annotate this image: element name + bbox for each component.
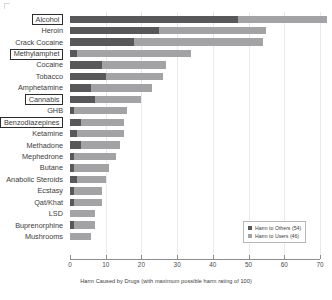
- category-label-buprenorphine: Buprenorphine: [0, 220, 66, 231]
- bar-segment-harm-to-users: [74, 199, 103, 206]
- category-label-ghb: GHB: [0, 106, 66, 117]
- bar-segment-harm-to-users: [81, 141, 120, 148]
- category-label-text: Cannabis: [25, 94, 63, 105]
- stacked-bar-mephedrone: [70, 153, 116, 160]
- stacked-bar-ecstasy: [70, 187, 102, 194]
- category-label-mephedrone: Mephedrone: [0, 151, 66, 162]
- x-axis-tick-label: 0: [68, 261, 72, 268]
- legend-label: Harm to Others (54): [255, 225, 301, 231]
- category-label-text: Amphetamine: [18, 84, 63, 92]
- bar-row: [70, 106, 320, 117]
- bar-segment-harm-to-others: [70, 141, 81, 148]
- category-label-text: Ecstasy: [37, 187, 63, 195]
- category-label-text: Methylamphet: [10, 49, 63, 60]
- category-label-lsd: LSD: [0, 208, 66, 219]
- chart-legend: Harm to Others (54)Harm to Users (46): [243, 221, 306, 243]
- bar-row: [70, 48, 320, 59]
- category-label-text: GHB: [47, 107, 63, 115]
- bar-row: [70, 174, 320, 185]
- stacked-bar-cocaine: [70, 61, 166, 68]
- bar-row: [70, 151, 320, 162]
- bar-row: [70, 25, 320, 36]
- bar-segment-harm-to-others: [70, 176, 77, 183]
- bar-segment-harm-to-users: [159, 27, 266, 34]
- category-label-text: LSD: [49, 210, 63, 218]
- category-label-methadone: Methadone: [0, 140, 66, 151]
- category-label-text: Alcohol: [32, 14, 63, 25]
- legend-item: Harm to Users (46): [248, 233, 301, 239]
- bar-row: [70, 186, 320, 197]
- stacked-bar-heroin: [70, 27, 266, 34]
- bar-segment-harm-to-users: [74, 153, 117, 160]
- bar-segment-harm-to-users: [95, 96, 141, 103]
- stacked-bar-methadone: [70, 141, 120, 148]
- category-label-text: Cocaine: [36, 61, 63, 69]
- bar-segment-harm-to-others: [70, 119, 81, 126]
- x-axis-tick: [249, 255, 250, 259]
- x-axis-line: [70, 259, 320, 260]
- x-axis-tick-label: 60: [281, 261, 288, 268]
- bar-segment-harm-to-others: [70, 16, 238, 23]
- bar-segment-harm-to-users: [91, 84, 152, 91]
- category-label-anabolic-steroids: Anabolic Steroids: [0, 174, 66, 185]
- bar-segment-harm-to-users: [77, 130, 123, 137]
- bar-segment-harm-to-others: [70, 50, 77, 57]
- bar-segment-harm-to-users: [77, 50, 191, 57]
- x-axis-tick: [320, 255, 321, 259]
- legend-swatch-icon: [248, 226, 252, 230]
- bar-segment-harm-to-users: [81, 119, 124, 126]
- stacked-bar-qat-khat: [70, 199, 102, 206]
- x-axis-tick-label: 30: [174, 261, 181, 268]
- stacked-bar-methylamphet: [70, 50, 191, 57]
- category-label-text: Crack Cocaine: [15, 39, 63, 47]
- category-label-heroin: Heroin: [0, 25, 66, 36]
- drug-harm-bar-chart: AlcoholHeroinCrack CocaineMethylamphetCo…: [0, 0, 332, 300]
- stacked-bar-amphetamine: [70, 84, 152, 91]
- bar-segment-harm-to-users: [102, 61, 166, 68]
- bar-segment-harm-to-others: [70, 38, 134, 45]
- category-label-qat-khat: Qat/Khat: [0, 197, 66, 208]
- category-label-methylamphet: Methylamphet: [0, 48, 66, 59]
- x-axis-tick: [106, 255, 107, 259]
- bar-segment-harm-to-others: [70, 73, 106, 80]
- bar-row: [70, 197, 320, 208]
- x-axis-tick-label: 10: [102, 261, 109, 268]
- bar-segment-harm-to-users: [70, 233, 91, 240]
- x-axis-tick-label: 70: [316, 261, 323, 268]
- category-label-benzodiazepines: Benzodiazepines: [0, 117, 66, 128]
- x-axis-tick-label: 50: [245, 261, 252, 268]
- bar-segment-harm-to-users: [238, 16, 327, 23]
- stacked-bar-crack-cocaine: [70, 38, 263, 45]
- bar-segment-harm-to-others: [70, 61, 102, 68]
- x-axis-tick: [177, 255, 178, 259]
- category-label-text: Butane: [40, 164, 63, 172]
- category-label-amphetamine: Amphetamine: [0, 83, 66, 94]
- bar-row: [70, 208, 320, 219]
- x-axis-tick: [284, 255, 285, 259]
- category-axis-labels: AlcoholHeroinCrack CocaineMethylamphetCo…: [0, 14, 66, 243]
- bar-segment-harm-to-others: [70, 84, 91, 91]
- stacked-bar-ketamine: [70, 130, 124, 137]
- bar-row: [70, 83, 320, 94]
- category-label-mushrooms: Mushrooms: [0, 231, 66, 242]
- bar-segment-harm-to-users: [74, 164, 110, 171]
- bar-segment-harm-to-others: [70, 96, 95, 103]
- bar-segment-harm-to-users: [74, 221, 95, 228]
- category-label-ketamine: Ketamine: [0, 128, 66, 139]
- legend-label: Harm to Users (46): [255, 233, 299, 239]
- stacked-bar-lsd: [70, 210, 95, 217]
- category-label-text: Tobacco: [36, 73, 63, 81]
- figure-corner-mark: [4, 3, 10, 9]
- bar-segment-harm-to-others: [70, 130, 77, 137]
- bar-segment-harm-to-users: [106, 73, 163, 80]
- bar-row: [70, 128, 320, 139]
- gridline: [320, 12, 321, 257]
- legend-swatch-icon: [248, 234, 252, 238]
- x-axis-tick-label: 20: [138, 261, 145, 268]
- bar-segment-harm-to-users: [134, 38, 263, 45]
- category-label-text: Qat/Khat: [34, 199, 63, 207]
- category-label-cannabis: Cannabis: [0, 94, 66, 105]
- bar-row: [70, 14, 320, 25]
- bar-row: [70, 163, 320, 174]
- legend-item: Harm to Others (54): [248, 225, 301, 231]
